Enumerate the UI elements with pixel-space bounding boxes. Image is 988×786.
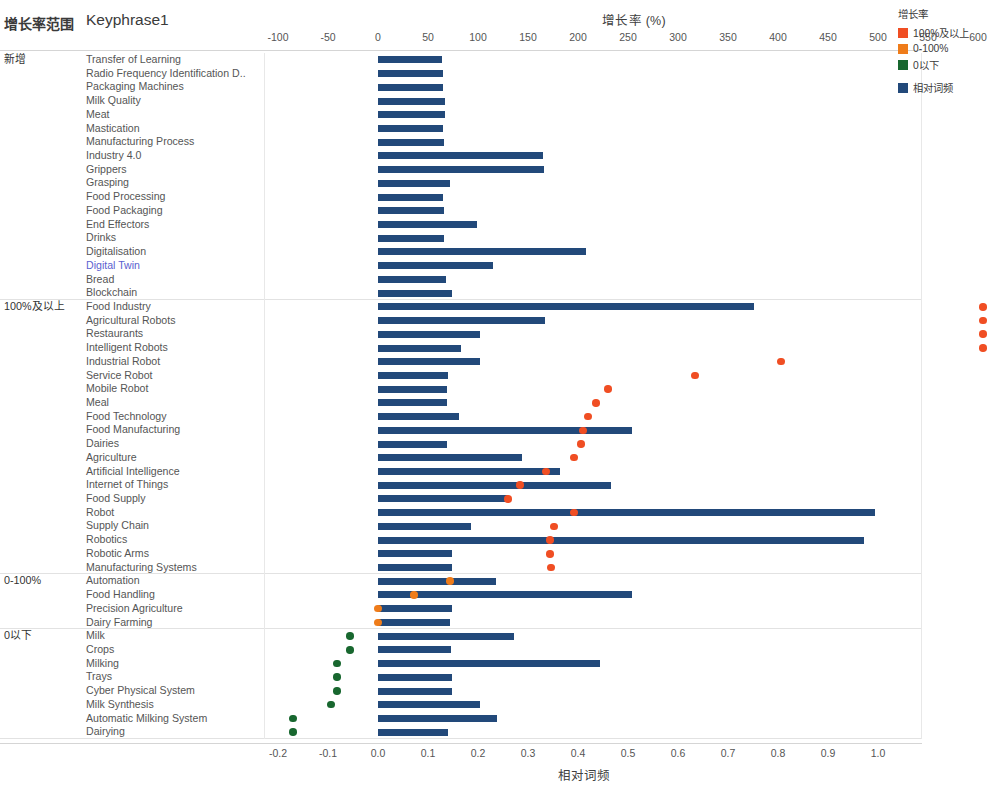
chart-row[interactable]: Food Technology [0,410,988,424]
chart-row[interactable]: Grasping [0,176,988,190]
chart-row[interactable]: Food Industry [0,300,988,314]
chart-row[interactable]: Mobile Robot [0,382,988,396]
legend-item[interactable]: 100%及以上 [898,25,986,40]
chart-row[interactable]: Grippers [0,163,988,177]
frequency-bar[interactable] [378,646,451,653]
frequency-bar[interactable] [378,454,522,461]
frequency-bar[interactable] [378,303,754,310]
growth-rate-dot[interactable] [550,523,558,531]
frequency-bar[interactable] [378,729,448,736]
chart-row[interactable]: Milk Quality [0,94,988,108]
chart-row[interactable]: Meal [0,396,988,410]
frequency-bar[interactable] [378,290,452,297]
growth-rate-dot[interactable] [327,701,335,709]
growth-rate-dot[interactable] [584,413,592,421]
chart-row[interactable]: Precision Agriculture [0,602,988,616]
chart-row[interactable]: Manufacturing Process [0,135,988,149]
frequency-bar[interactable] [378,56,442,63]
chart-row[interactable]: Crops [0,643,988,657]
chart-row[interactable]: Restaurants [0,327,988,341]
frequency-bar[interactable] [378,605,452,612]
chart-row[interactable]: Agricultural Robots [0,314,988,328]
growth-rate-dot[interactable] [979,330,987,338]
growth-rate-dot[interactable] [570,454,578,462]
chart-row[interactable]: Cyber Physical System [0,684,988,698]
chart-row[interactable]: Drinks [0,231,988,245]
growth-rate-dot[interactable] [546,550,554,558]
growth-rate-dot[interactable] [374,619,382,627]
chart-row[interactable]: Manufacturing Systems [0,561,988,575]
frequency-bar[interactable] [378,180,450,187]
frequency-bar[interactable] [378,248,586,255]
chart-row[interactable]: Robotics [0,533,988,547]
frequency-bar[interactable] [378,372,448,379]
chart-row[interactable]: Dairies [0,437,988,451]
growth-rate-dot[interactable] [289,715,297,723]
growth-rate-dot[interactable] [979,303,987,311]
frequency-bar[interactable] [378,194,443,201]
chart-row[interactable]: Industry 4.0 [0,149,988,163]
frequency-bar[interactable] [378,537,864,544]
frequency-bar[interactable] [378,276,446,283]
frequency-bar[interactable] [378,98,445,105]
growth-rate-dot[interactable] [691,372,699,380]
growth-rate-dot[interactable] [516,481,524,489]
frequency-bar[interactable] [378,345,461,352]
growth-rate-dot[interactable] [777,358,785,366]
frequency-bar[interactable] [378,550,452,557]
frequency-bar[interactable] [378,482,611,489]
frequency-bar[interactable] [378,358,480,365]
frequency-bar[interactable] [378,509,875,516]
frequency-bar[interactable] [378,166,544,173]
frequency-bar[interactable] [378,688,452,695]
chart-row[interactable]: Meat [0,108,988,122]
growth-rate-dot[interactable] [604,385,612,393]
growth-rate-dot[interactable] [374,605,382,613]
growth-rate-dot[interactable] [592,399,600,407]
frequency-bar[interactable] [378,619,450,626]
frequency-bar[interactable] [378,235,444,242]
frequency-bar[interactable] [378,152,543,159]
chart-row[interactable]: Agriculture [0,451,988,465]
chart-row[interactable]: Digital Twin [0,259,988,273]
growth-rate-dot[interactable] [979,317,987,325]
growth-rate-dot[interactable] [446,577,454,585]
chart-row[interactable]: Industrial Robot [0,355,988,369]
chart-row[interactable]: Automatic Milking System [0,712,988,726]
frequency-bar[interactable] [378,207,444,214]
chart-row[interactable]: Food Handling [0,588,988,602]
frequency-bar[interactable] [378,221,477,228]
frequency-bar[interactable] [378,715,497,722]
chart-row[interactable]: Bread [0,273,988,287]
chart-row[interactable]: Dairy Farming [0,616,988,630]
legend-item[interactable]: 0-100% [898,43,986,54]
growth-rate-dot[interactable] [579,427,587,435]
legend-item[interactable]: 0以下 [898,57,986,72]
frequency-bar[interactable] [378,495,508,502]
frequency-bar[interactable] [378,427,632,434]
growth-rate-dot[interactable] [577,440,585,448]
chart-row[interactable]: Milk Synthesis [0,698,988,712]
chart-row[interactable]: Automation [0,574,988,588]
chart-row[interactable]: Trays [0,670,988,684]
chart-row[interactable]: Packaging Machines [0,80,988,94]
frequency-bar[interactable] [378,386,447,393]
chart-row[interactable]: Supply Chain [0,519,988,533]
frequency-bar[interactable] [378,262,493,269]
chart-row[interactable]: Radio Frequency Identification D.. [0,67,988,81]
growth-rate-dot[interactable] [547,564,555,572]
chart-row[interactable]: Digitalisation [0,245,988,259]
frequency-bar[interactable] [378,139,444,146]
growth-rate-dot[interactable] [546,536,554,544]
growth-rate-dot[interactable] [410,591,418,599]
frequency-bar[interactable] [378,331,480,338]
frequency-bar[interactable] [378,70,443,77]
growth-rate-dot[interactable] [333,673,341,681]
frequency-bar[interactable] [378,125,443,132]
frequency-bar[interactable] [378,564,452,571]
chart-row[interactable]: Robotic Arms [0,547,988,561]
chart-row[interactable]: Internet of Things [0,478,988,492]
growth-rate-dot[interactable] [346,632,354,640]
frequency-bar[interactable] [378,468,560,475]
chart-row[interactable]: Mastication [0,122,988,136]
